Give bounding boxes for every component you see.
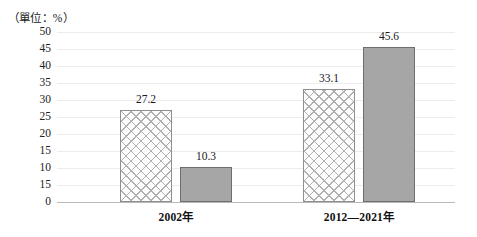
bar-chart: （單位：%） 504540353025201510150 27.210.333.… — [0, 0, 477, 237]
plot-area: 27.210.333.145.6 — [57, 32, 455, 202]
x-axis-category-label: 2012—2021年 — [324, 208, 395, 224]
y-axis-tick-label: 40 — [11, 60, 57, 72]
bar-value-label: 33.1 — [319, 73, 339, 85]
y-axis-tick-label: 35 — [11, 77, 57, 89]
bar-value-label: 27.2 — [136, 94, 156, 106]
y-axis-tick-label: 15 — [11, 179, 57, 191]
y-axis-tick-label: 30 — [11, 94, 57, 106]
y-axis-tick-label: 50 — [11, 26, 57, 38]
x-axis-category-label: 2002年 — [159, 208, 194, 224]
y-axis-tick-label: 0 — [11, 196, 57, 208]
y-axis-tick-label: 20 — [11, 128, 57, 140]
bar — [120, 110, 172, 202]
bar-value-label: 45.6 — [379, 31, 399, 43]
bar — [180, 167, 232, 202]
bar — [363, 47, 415, 202]
y-axis: 504540353025201510150 — [0, 32, 57, 202]
y-axis-tick-label: 10 — [11, 162, 57, 174]
y-axis-tick-label: 25 — [11, 111, 57, 123]
y-axis-tick-label: 45 — [11, 43, 57, 55]
y-axis-tick-label: 15 — [11, 145, 57, 157]
bar-value-label: 10.3 — [196, 151, 216, 163]
x-axis-line — [57, 202, 455, 203]
bar — [303, 89, 355, 202]
chart-unit-caption: （單位：%） — [8, 9, 74, 25]
